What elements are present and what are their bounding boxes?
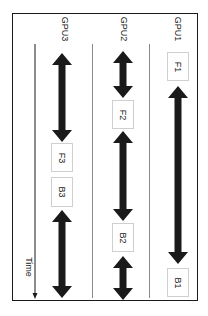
gpu2-double-arrow-2-icon [113,131,133,221]
double-arrows-layer [0,0,208,316]
gpu1-double-arrow-icon [168,86,188,264]
gpu3-double-arrow-1-icon [52,53,72,142]
gpu2-double-arrow-1-icon [113,51,133,98]
gpu2-double-arrow-3-icon [113,256,133,300]
gpu3-double-arrow-2-icon [52,210,72,298]
